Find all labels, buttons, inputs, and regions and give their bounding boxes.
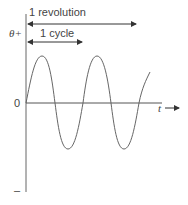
x-axis-label: t — [158, 102, 162, 114]
y-axis-positive-label: θ+ — [9, 27, 22, 39]
origin-label: 0 — [14, 97, 20, 109]
revolution-label: 1 revolution — [29, 6, 86, 18]
cycle-label: 1 cycle — [40, 27, 74, 39]
sine-diagram: 1 revolution 1 cycle θ+ 0 t – — [0, 0, 188, 205]
y-axis-negative-label: – — [14, 184, 21, 196]
